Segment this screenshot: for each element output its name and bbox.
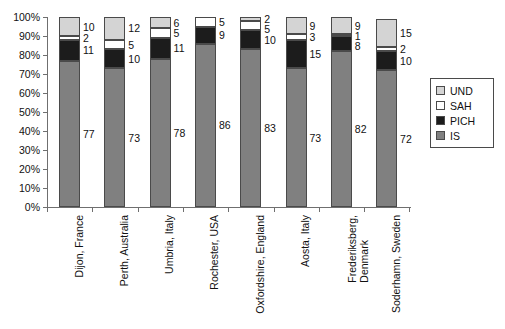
data-label-is: 73 — [310, 133, 322, 143]
data-label-sah: 5 — [264, 24, 270, 34]
bar-segment-sah — [240, 21, 261, 31]
data-label-sah: 5 — [219, 17, 225, 27]
x-axis-category-label: Rochester, USA — [209, 215, 221, 290]
bar-segment-pich — [286, 40, 307, 69]
x-axis-category-label: Umbria, Italy — [164, 215, 176, 274]
legend-label: PICH — [450, 116, 475, 126]
data-label-pich: 10 — [128, 54, 140, 64]
data-label-pich: 11 — [83, 45, 94, 55]
bar-segment-pich — [240, 30, 261, 49]
data-label-is: 83 — [264, 123, 276, 133]
data-label-pich: 10 — [264, 35, 276, 45]
bar-segment-sah — [195, 17, 216, 27]
data-label-pich: 10 — [400, 56, 412, 66]
y-axis-tick-mark — [43, 169, 47, 170]
bar-segment-pich — [59, 40, 80, 61]
bar-stack — [59, 17, 80, 207]
bar-segment-is — [376, 70, 397, 207]
chart-legend: UNDSAHPICHIS — [430, 78, 494, 148]
data-label-pich: 9 — [219, 30, 225, 40]
x-axis-category-label: Oxfordshire, England — [255, 215, 267, 314]
y-axis-line — [47, 17, 48, 208]
legend-item: IS — [436, 128, 493, 143]
data-label-und: 12 — [128, 23, 140, 33]
bar-segment-und — [286, 17, 307, 34]
x-axis-tick-mark — [92, 208, 93, 212]
data-label-sah: 2 — [83, 33, 89, 43]
data-label-pich: 15 — [310, 49, 322, 59]
x-axis-tick-mark — [138, 208, 139, 212]
x-axis-tick-mark — [409, 208, 410, 212]
legend-item: PICH — [436, 113, 493, 128]
bar-segment-sah — [286, 34, 307, 40]
x-axis-category-label: Soderhamn, Sweden — [391, 215, 403, 313]
stacked-bar-chart: 100%90%80%70%60%50%40%30%20%10%0% 102117… — [0, 0, 505, 329]
y-axis-tick-mark — [43, 55, 47, 56]
y-axis-tick-mark — [43, 36, 47, 37]
y-axis-tick-label: 50% — [0, 107, 40, 117]
bar-segment-und — [59, 17, 80, 36]
bar-segment-pich — [195, 27, 216, 44]
bar-segment-und — [104, 17, 125, 40]
x-axis-tick-mark — [183, 208, 184, 212]
y-axis-tick-label: 100% — [0, 12, 40, 22]
bar-segment-is — [59, 61, 80, 207]
bar-segment-sah — [104, 40, 125, 50]
bar-segment-pich — [376, 51, 397, 70]
x-axis-category-label: Perth, Australia — [119, 215, 131, 286]
bar-segment-is — [104, 68, 125, 207]
y-axis-tick-mark — [43, 131, 47, 132]
y-axis-tick-mark — [43, 150, 47, 151]
x-axis-tick-mark — [228, 208, 229, 212]
bar-segment-is — [150, 59, 171, 207]
bar-segment-is — [331, 51, 352, 207]
bar-segment-pich — [104, 49, 125, 68]
bar-segment-und — [150, 17, 171, 28]
bar-segment-sah — [376, 47, 397, 51]
data-label-is: 73 — [128, 133, 140, 143]
bar-segment-und — [240, 17, 261, 21]
bar-segment-is — [240, 49, 261, 207]
x-axis-category-label: Dijon, France — [74, 215, 86, 277]
y-axis-tick-label: 0% — [0, 202, 40, 212]
x-axis-tick-mark — [274, 208, 275, 212]
bar-segment-und — [376, 19, 397, 48]
bar-segment-is — [286, 68, 307, 207]
data-label-pich: 11 — [174, 43, 185, 53]
data-label-is: 78 — [174, 128, 186, 138]
data-label-und: 9 — [310, 21, 316, 31]
bar-stack — [240, 17, 261, 207]
bar-stack — [376, 17, 397, 207]
bar-stack — [286, 17, 307, 207]
data-label-pich: 8 — [355, 41, 361, 51]
data-label-sah: 5 — [174, 28, 180, 38]
legend-item: UND — [436, 83, 493, 98]
y-axis-tick-label: 90% — [0, 31, 40, 41]
x-axis-tick-mark — [319, 208, 320, 212]
data-label-is: 86 — [219, 120, 231, 130]
y-axis-tick-mark — [43, 93, 47, 94]
x-axis-tick-mark — [364, 208, 365, 212]
x-axis-tick-mark — [47, 208, 48, 212]
y-axis-tick-mark — [43, 74, 47, 75]
y-axis-tick-label: 10% — [0, 183, 40, 193]
data-label-sah: 2 — [400, 44, 406, 54]
data-label-sah: 5 — [128, 40, 134, 50]
bar-segment-sah — [331, 34, 352, 36]
y-axis-tick-label: 80% — [0, 50, 40, 60]
bar-stack — [331, 17, 352, 207]
legend-swatch-pich — [436, 116, 445, 125]
data-label-sah: 3 — [310, 32, 316, 42]
bar-segment-pich — [331, 36, 352, 51]
y-axis-tick-mark — [43, 17, 47, 18]
legend-swatch-sah — [436, 101, 445, 110]
y-axis-tick-label: 40% — [0, 126, 40, 136]
data-label-und: 10 — [83, 22, 95, 32]
data-label-is: 72 — [400, 134, 412, 144]
y-axis-tick-label: 60% — [0, 88, 40, 98]
legend-swatch-und — [436, 86, 445, 95]
legend-item: SAH — [436, 98, 493, 113]
bar-stack — [150, 17, 171, 207]
x-axis-line — [47, 207, 411, 208]
legend-label: UND — [450, 86, 473, 96]
